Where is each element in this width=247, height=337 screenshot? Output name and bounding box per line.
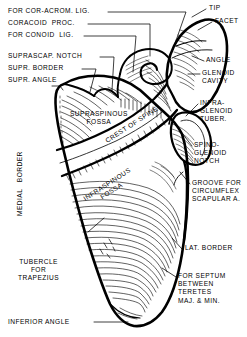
label-angle: ANGLE bbox=[206, 56, 231, 64]
label-infraglenoid-tuber: INFRA- GLENOID TUBER. bbox=[200, 99, 233, 124]
label-supraspinous-fossa: SUPRASPINOUS FOSSA bbox=[70, 110, 128, 126]
label-suprascap-notch: SUPRASCAP. NOTCH bbox=[8, 52, 82, 60]
label-medial-border: MEDIAL BORDER bbox=[16, 151, 24, 216]
label-coracoid-proc: CORACOID PROC. bbox=[8, 19, 75, 27]
label-for-cor-acrom-lig: FOR COR-ACROM. LIG. bbox=[8, 7, 90, 15]
label-facet: FACET bbox=[215, 17, 239, 25]
label-groove-circumflex: GROOVE FOR CIRCUMFLEX SCAPULAR A. bbox=[192, 179, 241, 204]
label-tubercle-for-trapezius: TUBERCLE FOR TRAPEZIUS bbox=[18, 258, 59, 283]
label-supr-border: SUPR. BORDER bbox=[8, 64, 64, 72]
label-glenoid-cavity: GLENOID CAVITY bbox=[202, 69, 235, 85]
label-inferior-angle: INFERIOR ANGLE bbox=[8, 318, 70, 326]
label-tip: TIP bbox=[209, 4, 221, 12]
label-lat-border: LAT. BORDER bbox=[185, 244, 233, 252]
label-septum-teretes: FOR SEPTUM BETWEEN TERETES MAJ. & MIN. bbox=[178, 272, 226, 305]
label-spinoglenoid-notch: SPINO- GLENOID NOTCH bbox=[194, 141, 227, 166]
label-supr-angle: SUPR. ANGLE bbox=[8, 76, 57, 84]
label-for-conoid-lig: FOR CONOID LIG. bbox=[8, 31, 73, 39]
